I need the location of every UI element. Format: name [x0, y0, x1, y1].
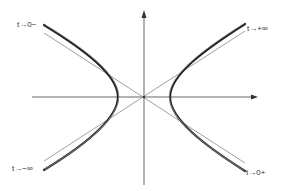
x-axis-arrow-icon [251, 95, 258, 100]
label-top-left: t→0− [17, 21, 36, 29]
label-top-right: t→+∞ [247, 25, 268, 33]
y-axis-arrow-icon [142, 10, 147, 18]
label-bottom-right: t→0+ [246, 169, 265, 177]
label-bottom-left: t→−∞ [12, 165, 33, 173]
diagram-canvas [0, 0, 282, 191]
hyperbola-diagram: t→0− t→+∞ t→−∞ t→0+ [0, 0, 282, 191]
origin-point [143, 96, 145, 98]
